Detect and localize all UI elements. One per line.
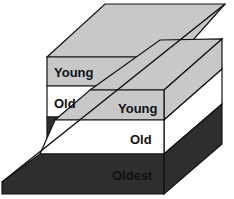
right-oldest-label: Oldest (112, 168, 153, 183)
fault-diagram: Young Old Young Old Oldest (0, 0, 234, 199)
left-young-label: Young (54, 65, 94, 80)
right-old-label: Old (130, 132, 152, 147)
left-old-label: Old (54, 96, 76, 111)
right-young-label: Young (118, 101, 158, 116)
